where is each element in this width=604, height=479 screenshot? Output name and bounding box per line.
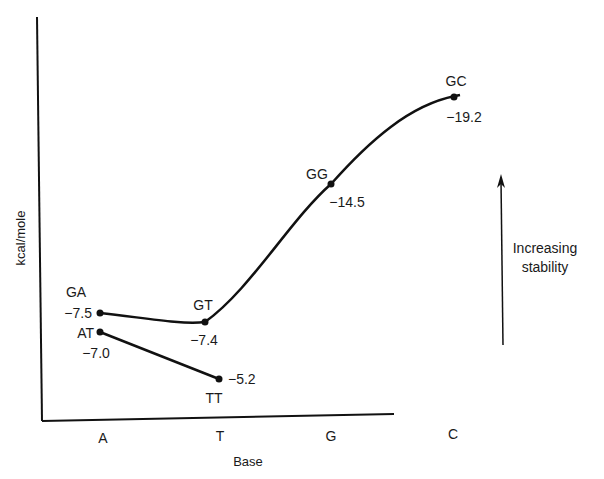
- value-GC: −19.2: [446, 109, 482, 125]
- annotation-line2: stability: [522, 259, 569, 275]
- x-tick-G: G: [326, 428, 337, 444]
- label-GA: GA: [66, 284, 87, 300]
- point-GG: [328, 181, 335, 188]
- point-TT: [216, 376, 223, 383]
- label-GG: GG: [306, 166, 328, 182]
- chart: kcal/mole Base A T G C GA −7.5 AT −7.0 G…: [0, 0, 604, 479]
- x-tick-C: C: [448, 426, 458, 442]
- stability-arrow: [501, 180, 503, 345]
- annotation-line1: Increasing: [513, 240, 578, 256]
- x-tick-T: T: [216, 428, 225, 444]
- value-GT: −7.4: [190, 332, 218, 348]
- y-axis-label: kcal/mole: [13, 211, 28, 266]
- value-TT: −5.2: [228, 371, 256, 387]
- point-GT: [202, 319, 209, 326]
- x-tick-A: A: [98, 430, 108, 446]
- x-axis-label: Base: [233, 454, 263, 469]
- label-TT: TT: [205, 390, 223, 406]
- label-GT: GT: [193, 297, 213, 313]
- x-axis: [42, 414, 394, 421]
- label-GC: GC: [446, 73, 467, 89]
- g-series-curve: [100, 95, 460, 323]
- point-AT: [97, 329, 104, 336]
- value-AT: −7.0: [82, 345, 110, 361]
- point-GC: [451, 94, 458, 101]
- point-GA: [97, 310, 104, 317]
- label-AT: AT: [77, 325, 94, 341]
- value-GG: −14.5: [329, 194, 365, 210]
- y-axis: [37, 17, 42, 421]
- value-GA: −7.5: [64, 305, 92, 321]
